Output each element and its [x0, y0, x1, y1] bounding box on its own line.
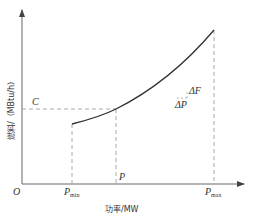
x-tick-p: P [118, 171, 125, 182]
x-tick-pmin: Pmin [63, 186, 79, 198]
y-axis-label: 燃料/（MBtu/h） [6, 77, 16, 140]
fuel-curve-diagram: ΔF ΔP C O Pmin P Pmax 功率/MW 燃料/（MBtu/h） [0, 0, 256, 218]
x-axis-label: 功率/MW [105, 204, 139, 214]
delta-p-label: ΔP [174, 99, 187, 110]
fuel-cost-curve [72, 30, 214, 124]
delta-f-label: ΔF [188, 85, 202, 96]
x-tick-pmax: Pmax [204, 186, 221, 198]
origin-label: O [13, 186, 20, 197]
y-tick-c: C [32, 96, 39, 107]
